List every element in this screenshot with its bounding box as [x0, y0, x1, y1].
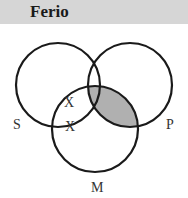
mark-x-1: X: [64, 95, 74, 111]
venn-diagram: [0, 0, 188, 198]
label-p: P: [166, 117, 174, 133]
label-m: M: [91, 180, 103, 196]
mark-x-2: X: [65, 119, 75, 135]
label-s: S: [13, 117, 21, 133]
